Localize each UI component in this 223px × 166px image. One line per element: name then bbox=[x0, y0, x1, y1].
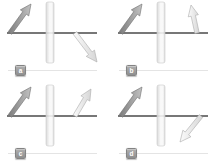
label-badge: c bbox=[15, 148, 26, 159]
panel-c: c bbox=[0, 83, 112, 166]
glass-slab bbox=[46, 2, 54, 63]
transmitted-ray-arrow bbox=[180, 115, 203, 142]
incident-ray-arrow bbox=[8, 87, 31, 117]
incident-ray-arrow bbox=[119, 4, 142, 34]
incident-ray-arrow bbox=[119, 87, 142, 117]
panel-d: d bbox=[111, 83, 223, 166]
glass-slab bbox=[46, 85, 54, 146]
transmitted-ray-arrow bbox=[73, 89, 91, 117]
label-badge: d bbox=[126, 148, 137, 159]
incident-ray-arrow bbox=[8, 4, 31, 34]
panel-a: a bbox=[0, 0, 112, 83]
transmitted-ray-arrow bbox=[73, 32, 97, 62]
label-badge: a bbox=[15, 65, 26, 76]
transmitted-ray-arrow bbox=[188, 5, 199, 33]
panel-b: b bbox=[111, 0, 223, 83]
glass-slab bbox=[157, 2, 165, 63]
label-badge: b bbox=[126, 65, 137, 76]
glass-slab bbox=[157, 85, 165, 146]
ray-through-glass-pane-figure: a b c d bbox=[0, 0, 223, 166]
